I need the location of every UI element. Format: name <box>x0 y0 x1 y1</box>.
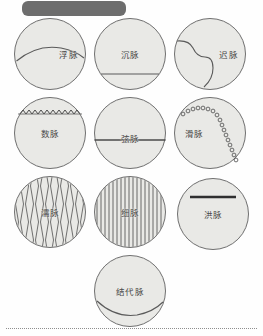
chord-near-bottom-icon <box>93 17 167 91</box>
pulse-circle-ru-mai: 濡脉 <box>13 175 87 249</box>
pulse-circle-fu-mai: 浮脉 <box>13 17 87 91</box>
pulse-circle-jiedai-mai: 结代脉 <box>93 254 167 328</box>
zigzag-near-top-icon <box>13 96 87 170</box>
straight-chord-middle-icon <box>93 96 167 170</box>
pulse-circle-chi-mai: 迟脉 <box>173 17 247 91</box>
pulse-circle-xian-mai: 弦脉 <box>93 96 167 170</box>
bead-curve-icon <box>173 96 247 170</box>
pulse-circle-hong-mai: 洪脉 <box>176 177 250 251</box>
pulse-circle-xi-mai: 细脉 <box>93 175 167 249</box>
pulse-circle-shuo-mai: 数脉 <box>13 96 87 170</box>
pulse-circle-chen-mai: 沉脉 <box>93 17 167 91</box>
page-root: 浮脉 沉脉 迟脉 数脉 <box>0 0 263 336</box>
thick-bar-upper-icon <box>176 177 250 251</box>
pulse-diagram-figure: 浮脉 沉脉 迟脉 数脉 <box>0 0 263 336</box>
pulse-circle-hua-mai: 滑脉 <box>173 96 247 170</box>
straight-vertical-lines-icon <box>93 175 167 249</box>
arc-near-bottom-icon <box>93 254 167 328</box>
footer-dotted-rule <box>6 328 257 329</box>
wavy-vertical-lines-icon <box>13 175 87 249</box>
s-curve-vertical-icon <box>173 17 247 91</box>
arc-near-top-icon <box>13 17 87 91</box>
